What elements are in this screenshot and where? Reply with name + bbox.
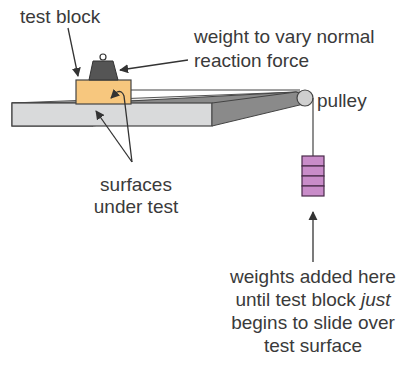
label-weight-line1: weight to vary normal <box>194 26 375 47</box>
label-weights-line3: begins to slide over <box>218 312 408 333</box>
label-weight-line2: reaction force <box>194 50 309 71</box>
weight-icon <box>89 54 118 80</box>
label-weights-line2-just: just <box>361 289 391 310</box>
table-icon <box>12 92 310 126</box>
arrow-test-block <box>68 28 78 76</box>
pulley-icon <box>297 90 313 106</box>
label-weights-line2: until test block just <box>218 289 408 310</box>
label-weights-line1: weights added here <box>218 266 408 287</box>
label-weights-line2-a: until test block <box>235 289 361 310</box>
label-test-block: test block <box>20 6 100 27</box>
hanging-weights-icon <box>302 156 324 196</box>
arrow-weight <box>120 60 188 70</box>
test-block-icon <box>76 80 131 104</box>
label-surfaces-line1: surfaces <box>88 174 184 195</box>
label-pulley: pulley <box>317 90 367 111</box>
label-surfaces-line2: under test <box>88 196 184 217</box>
friction-experiment-diagram: test block weight to vary normal reactio… <box>0 0 411 370</box>
label-weights-line4: test surface <box>218 335 408 356</box>
